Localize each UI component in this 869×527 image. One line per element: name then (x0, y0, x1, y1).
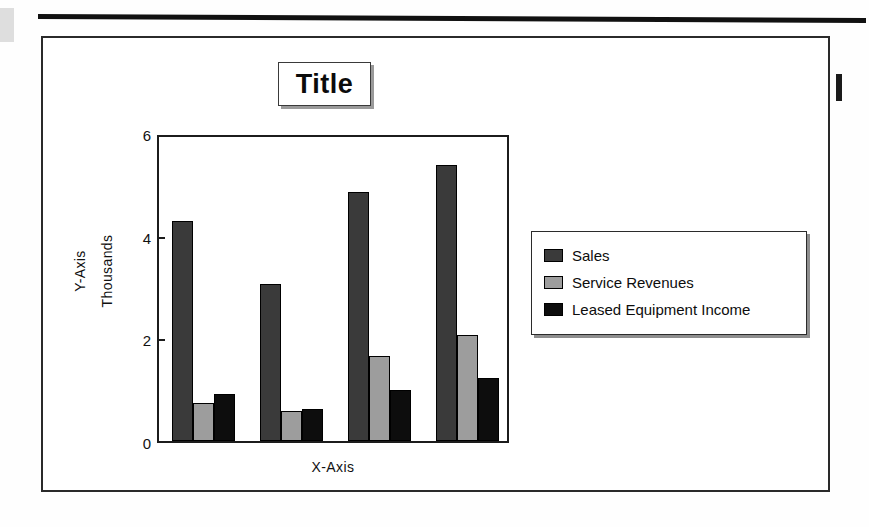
legend-item[interactable]: Leased Equipment Income (544, 296, 794, 323)
y-axis-units-label: Thousands (99, 218, 115, 324)
y-axis-tick-label: 4 (143, 230, 151, 245)
legend-item-label: Service Revenues (572, 275, 694, 290)
plot-area (157, 135, 509, 443)
y-axis-tick-label: 0 (143, 436, 151, 451)
y-axis-tick-label: 6 (143, 128, 151, 143)
bar-group (260, 137, 323, 441)
bar[interactable] (457, 335, 478, 441)
scan-smudge-artifact (0, 8, 14, 42)
chart-title-text: Title (296, 71, 354, 98)
bar-group (172, 137, 235, 441)
bar-group (348, 137, 411, 441)
legend-swatch-icon (544, 276, 563, 289)
chart-frame: Title Y-Axis Thousands 0246 X-Axis Sales… (41, 36, 830, 492)
bar[interactable] (478, 378, 499, 441)
legend-item[interactable]: Service Revenues (544, 269, 794, 296)
bar[interactable] (172, 221, 193, 441)
x-axis-title: X-Axis (157, 459, 509, 475)
bar[interactable] (193, 403, 214, 441)
bar[interactable] (369, 356, 390, 441)
bars-layer (159, 137, 507, 441)
bar[interactable] (260, 284, 281, 441)
top-horizontal-rule (38, 14, 866, 23)
y-axis-tick-mark (157, 237, 165, 239)
y-axis-title: Y-Axis (72, 226, 88, 316)
bar[interactable] (390, 390, 411, 441)
bar[interactable] (281, 411, 302, 441)
bar[interactable] (436, 165, 457, 441)
legend-item-label: Sales (572, 248, 610, 263)
chart-legend[interactable]: SalesService RevenuesLeased Equipment In… (531, 231, 807, 335)
legend-item-label: Leased Equipment Income (572, 302, 750, 317)
bar[interactable] (302, 409, 323, 441)
legend-swatch-icon (544, 303, 563, 316)
legend-swatch-icon (544, 249, 563, 262)
right-edge-mark (836, 74, 842, 101)
bar-chart: Title Y-Axis Thousands 0246 X-Axis Sales… (43, 38, 832, 494)
y-axis-tick-label: 2 (143, 333, 151, 348)
scanned-page-background: Title Y-Axis Thousands 0246 X-Axis Sales… (0, 0, 869, 527)
legend-item[interactable]: Sales (544, 242, 794, 269)
bar[interactable] (348, 192, 369, 441)
y-axis-tick-mark (157, 339, 165, 341)
y-axis-tick-labels: 0246 (115, 135, 151, 443)
bar-group (436, 137, 499, 441)
bar[interactable] (214, 394, 235, 441)
chart-title-box[interactable]: Title (278, 62, 371, 106)
